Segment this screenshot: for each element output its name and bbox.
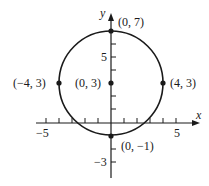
x-axis: x −5 5	[36, 108, 202, 140]
point-neg4-3-dot	[56, 80, 61, 85]
point-0-7-dot	[108, 28, 113, 33]
y-axis-label: y	[99, 6, 106, 20]
point-4-3-dot	[160, 80, 165, 85]
y-axis-arrow-icon	[108, 13, 114, 21]
point-0-3-dot	[108, 80, 113, 85]
point-label-0-neg1: (0, −1)	[121, 139, 154, 153]
x-axis-label: x	[195, 108, 202, 122]
y-tick-label-neg3: −3	[94, 155, 107, 169]
point-0-neg1-dot	[108, 133, 113, 138]
coordinate-plane: x −5 5 y 5 −3 (0, 7) (−4, 3) (0, 3) (4, …	[0, 0, 209, 186]
y-tick-label-5: 5	[101, 50, 107, 64]
x-tick-label-neg5: −5	[36, 126, 49, 140]
point-label-0-7: (0, 7)	[118, 15, 144, 29]
x-tick-label-5: 5	[174, 126, 180, 140]
point-label-neg4-3: (−4, 3)	[13, 76, 46, 90]
point-label-0-3: (0, 3)	[75, 76, 101, 90]
point-label-4-3: (4, 3)	[170, 76, 196, 90]
